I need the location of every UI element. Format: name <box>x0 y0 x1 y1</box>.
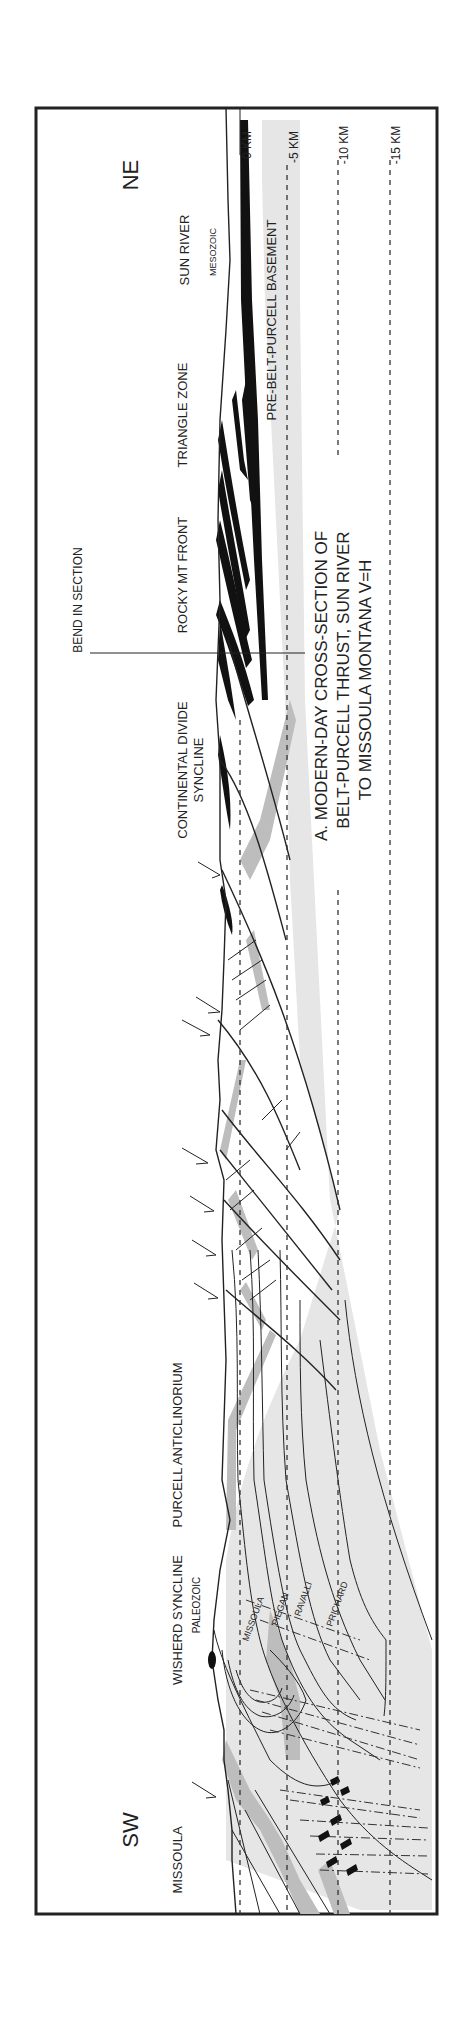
title-line-2: BELT-PURCELL THRUST, SUN RIVER <box>334 531 353 828</box>
dip-arrow <box>194 1283 218 1299</box>
depth-label-15: -15 KM <box>389 126 403 165</box>
dip-arrow <box>192 1240 216 1256</box>
ne-label: NE <box>118 160 143 191</box>
unit-paleozoic: PALEOZOIC <box>191 1577 202 1634</box>
locality-continental-divide: CONTINENTAL DIVIDE <box>175 701 190 839</box>
locality-purcell-anticlinorium: PURCELL ANTICLINORIUM <box>170 1363 185 1528</box>
dip-arrow <box>182 1020 210 1036</box>
sw-label: SW <box>118 1812 143 1848</box>
depth-label-0: 0 KM <box>240 131 254 159</box>
dip-arrow <box>182 1148 208 1164</box>
unit-basement: PRE-BELT-PURCELL BASEMENT <box>264 220 279 421</box>
locality-rocky-mt-front: ROCKY MT FRONT <box>175 517 190 634</box>
dip-arrow <box>196 997 220 1013</box>
locality-missoula: MISSOULA <box>170 1826 185 1894</box>
locality-wisherd-syncline: WISHERD SYNCLINE <box>170 1555 185 1685</box>
depth-label-5: -5 KM <box>287 131 301 163</box>
cross-section-figure: NE SW 0 KM -5 KM -10 KM -15 KM SUN RIVER… <box>0 0 459 2019</box>
locality-sun-river: SUN RIVER <box>177 215 192 286</box>
locality-triangle-zone: TRIANGLE ZONE <box>175 362 190 467</box>
bend-in-section-label: BEND IN SECTION <box>71 547 85 652</box>
dip-arrow <box>192 1782 216 1798</box>
unit-mesozoic: MESOZOIC <box>208 228 218 277</box>
title-line-3: TO MISSOULA MONTANA V=H <box>356 560 375 801</box>
depth-label-10: -10 KM <box>337 126 351 165</box>
locality-syncline: SYNCLINE <box>191 737 206 802</box>
dip-arrow <box>190 1196 214 1212</box>
dip-arrow <box>198 862 220 878</box>
title-line-1: A. MODERN-DAY CROSS-SECTION OF <box>312 531 331 841</box>
cross-section-body <box>182 108 432 1914</box>
